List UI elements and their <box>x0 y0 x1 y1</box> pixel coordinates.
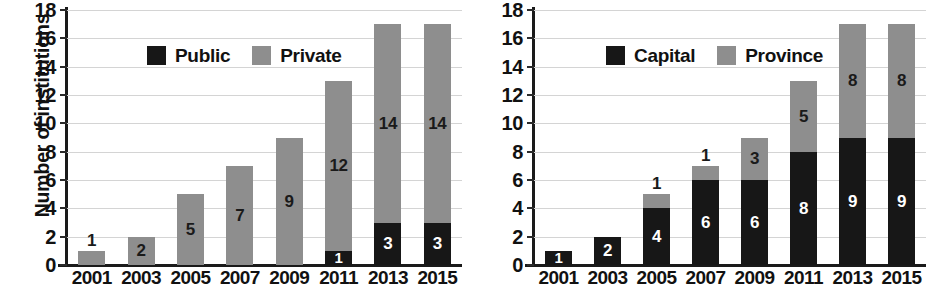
bar-stack: 143 <box>424 24 451 265</box>
bar-segment-public-2013[interactable]: 3 <box>374 223 401 266</box>
chart-panel-right: 024681012141618 12141636588989 CapitalPr… <box>467 0 934 294</box>
bar-value-label: 1 <box>701 147 710 164</box>
legend-right: CapitalProvince <box>606 46 823 65</box>
bar-segment-public-2011[interactable]: 1 <box>325 251 352 265</box>
bar-stack: 36 <box>741 138 768 266</box>
x-axis-tick-label-2005: 2005 <box>637 268 677 287</box>
bar-segment-private-2005[interactable]: 5 <box>177 194 204 265</box>
x-axis-tick-labels-right: 20012003200520072009201120132015 <box>534 268 926 294</box>
y-axis-tick-label: 6 <box>512 170 523 190</box>
x-axis-tick-label-2003: 2003 <box>588 268 628 287</box>
bar-segment-private-2003[interactable]: 2 <box>128 237 155 265</box>
bar-value-label: 12 <box>329 157 347 174</box>
bar-segment-capital-2001[interactable]: 1 <box>545 251 572 265</box>
bar-value-label: 3 <box>750 150 759 167</box>
bar-value-label: 5 <box>799 108 808 125</box>
legend-label: Province <box>745 46 823 65</box>
bar-segment-private-2009[interactable]: 9 <box>276 138 303 266</box>
y-axis-tick-label: 0 <box>512 255 523 275</box>
x-axis-tick-label-2007: 2007 <box>220 268 260 287</box>
bar-stack: 16 <box>692 166 719 265</box>
bar-group-2015[interactable]: 89 <box>882 10 922 265</box>
bar-segment-province-2013[interactable]: 8 <box>839 24 866 137</box>
y-axis-tick-label: 2 <box>512 227 523 247</box>
bar-stack: 1 <box>545 251 572 265</box>
x-axis-tick-label-2015: 2015 <box>882 268 922 287</box>
bar-stack: 89 <box>888 24 915 265</box>
bar-segment-capital-2005[interactable]: 4 <box>643 208 670 265</box>
x-axis-tick-label-2001: 2001 <box>539 268 579 287</box>
bar-segment-capital-2011[interactable]: 8 <box>790 152 817 265</box>
y-axis-tick-label: 8 <box>512 142 523 162</box>
bar-segment-province-2005[interactable]: 1 <box>643 194 670 208</box>
y-axis-tick-label: 12 <box>502 85 523 105</box>
chart-panel-left: Number of institutions 024681012141618 1… <box>0 0 467 294</box>
legend-item-capital[interactable]: Capital <box>606 46 695 65</box>
bar-value-label: 9 <box>897 193 906 210</box>
legend-item-private[interactable]: Private <box>252 46 341 65</box>
x-axis-tick-label-2011: 2011 <box>784 268 824 287</box>
bar-stack: 89 <box>839 24 866 265</box>
bar-value-label: 7 <box>235 207 244 224</box>
bar-value-label: 9 <box>848 193 857 210</box>
bar-segment-capital-2015[interactable]: 9 <box>888 138 915 266</box>
x-axis-tick-label-2011: 2011 <box>319 268 359 287</box>
bar-segment-private-2001[interactable]: 1 <box>78 251 105 265</box>
bar-group-2013[interactable]: 143 <box>368 10 408 265</box>
bar-segment-private-2013[interactable]: 14 <box>374 24 401 222</box>
legend-swatch-private <box>252 46 271 65</box>
bar-segment-capital-2007[interactable]: 6 <box>692 180 719 265</box>
bar-stack: 121 <box>325 81 352 265</box>
y-axis-tick-label: 18 <box>502 0 523 20</box>
bar-segment-public-2015[interactable]: 3 <box>424 223 451 266</box>
legend-item-province[interactable]: Province <box>717 46 823 65</box>
x-axis-tick-label-2009: 2009 <box>269 268 309 287</box>
bar-segment-province-2015[interactable]: 8 <box>888 24 915 137</box>
legend-swatch-capital <box>606 46 625 65</box>
bar-segment-province-2009[interactable]: 3 <box>741 138 768 181</box>
bar-value-label: 14 <box>379 115 397 132</box>
y-axis-tick-label: 16 <box>502 28 523 48</box>
legend-label: Public <box>175 46 230 65</box>
bar-value-label: 1 <box>554 250 562 265</box>
bar-value-label: 1 <box>652 175 661 192</box>
x-axis-tick-label-2013: 2013 <box>368 268 408 287</box>
bar-group-2001[interactable]: 1 <box>72 10 112 265</box>
bar-value-label: 8 <box>848 72 857 89</box>
legend-label: Capital <box>634 46 695 65</box>
bar-group-2001[interactable]: 1 <box>539 10 579 265</box>
x-axis-tick-label-2005: 2005 <box>170 268 210 287</box>
bar-segment-province-2007[interactable]: 1 <box>692 166 719 180</box>
bar-value-label: 3 <box>433 235 442 252</box>
bar-segment-province-2011[interactable]: 5 <box>790 81 817 152</box>
bar-value-label: 2 <box>603 242 612 259</box>
bar-value-label: 4 <box>652 228 661 245</box>
bar-stack: 58 <box>790 81 817 265</box>
legend-item-public[interactable]: Public <box>147 46 230 65</box>
bar-value-label: 14 <box>428 115 446 132</box>
bar-segment-private-2007[interactable]: 7 <box>226 166 253 265</box>
bar-stack: 5 <box>177 194 204 265</box>
bar-segment-private-2011[interactable]: 12 <box>325 81 352 251</box>
bar-value-label: 6 <box>750 214 759 231</box>
bar-value-label: 6 <box>701 214 710 231</box>
bar-stack: 7 <box>226 166 253 265</box>
x-axis-tick-label-2009: 2009 <box>735 268 775 287</box>
bar-value-label: 1 <box>335 250 343 265</box>
bar-segment-capital-2009[interactable]: 6 <box>741 180 768 265</box>
x-axis-tick-label-2013: 2013 <box>833 268 873 287</box>
legend-swatch-province <box>717 46 736 65</box>
bar-stack: 9 <box>276 138 303 266</box>
bar-value-label: 8 <box>897 72 906 89</box>
bar-stack: 1 <box>78 251 105 265</box>
bar-group-2015[interactable]: 143 <box>417 10 457 265</box>
y-axis-tick-label: 14 <box>502 57 523 77</box>
bar-segment-private-2015[interactable]: 14 <box>424 24 451 222</box>
bar-value-label: 1 <box>87 232 96 249</box>
bar-segment-capital-2003[interactable]: 2 <box>594 237 621 265</box>
bar-segment-capital-2013[interactable]: 9 <box>839 138 866 266</box>
y-axis-tick-label: 10 <box>502 113 523 133</box>
plot-area-left: 024681012141618 12579121143143 PublicPri… <box>67 10 462 265</box>
bar-group-2013[interactable]: 89 <box>833 10 873 265</box>
stacked-bar-chart-figure: Number of institutions 024681012141618 1… <box>0 0 934 294</box>
